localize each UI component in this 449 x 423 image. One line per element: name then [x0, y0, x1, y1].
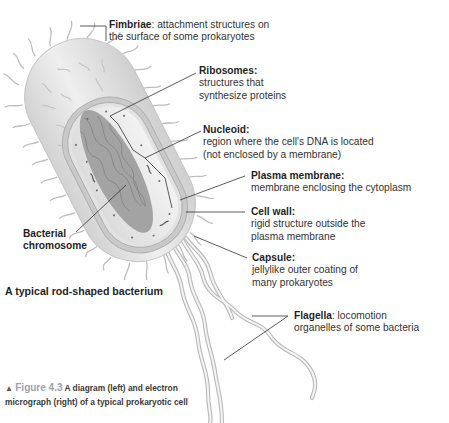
diagram-title: A typical rod-shaped bacterium [5, 285, 163, 297]
label-plasma-membrane-desc-1: membrane enclosing the cytoplasm [251, 182, 411, 193]
triangle-marker-icon: ▲ [5, 384, 13, 393]
label-nucleoid: Nucleoid: region where the cell's DNA is… [203, 124, 374, 161]
bacterium-illustration [0, 0, 449, 423]
label-nucleoid-desc-2: (not enclosed by a membrane) [203, 149, 341, 160]
label-cell-wall-desc-2: plasma membrane [251, 231, 335, 242]
figure-number: Figure 4.3 [15, 382, 62, 393]
label-ribosomes: Ribosomes: structures that synthesize pr… [199, 65, 286, 102]
figure-caption: ▲ Figure 4.3 A diagram (left) and electr… [5, 381, 195, 409]
label-plasma-membrane: Plasma membrane: membrane enclosing the … [251, 170, 411, 195]
label-cell-wall-term: Cell wall [251, 206, 292, 217]
label-flagella-desc-2: organelles of some bacteria [294, 322, 419, 333]
label-bacterial-chromosome: Bacterial chromosome [23, 228, 87, 253]
label-ribosomes-desc-2: synthesize proteins [199, 90, 286, 101]
label-nucleoid-desc-1: region where the cell's DNA is located [203, 136, 374, 147]
label-plasma-membrane-term: Plasma membrane [251, 170, 341, 181]
label-flagella-term: Flagella [294, 310, 332, 321]
label-cell-wall: Cell wall: rigid structure outside the p… [251, 206, 365, 243]
label-capsule: Capsule: jellylike outer coating of many… [252, 252, 358, 289]
label-chromosome-line-2: chromosome [23, 240, 87, 251]
label-chromosome-line-1: Bacterial [23, 228, 66, 239]
label-ribosomes-desc-1: structures that [199, 77, 264, 88]
label-ribosomes-term: Ribosomes [199, 65, 254, 76]
label-capsule-desc-2: many prokaryotes [252, 277, 333, 288]
label-fimbriae: Fimbriae: attachment structures on the s… [109, 19, 269, 44]
label-fimbriae-desc-1: attachment structures on [157, 19, 269, 30]
label-cell-wall-desc-1: rigid structure outside the [251, 218, 365, 229]
label-flagella: Flagella: locomotion organelles of some … [294, 310, 419, 335]
label-nucleoid-term: Nucleoid [203, 124, 246, 135]
label-capsule-term: Capsule [252, 252, 292, 263]
label-flagella-desc-1: locomotion [338, 310, 387, 321]
label-fimbriae-term: Fimbriae [109, 19, 151, 30]
label-capsule-desc-1: jellylike outer coating of [252, 264, 358, 275]
label-fimbriae-desc-2: the surface of some prokaryotes [109, 31, 255, 42]
